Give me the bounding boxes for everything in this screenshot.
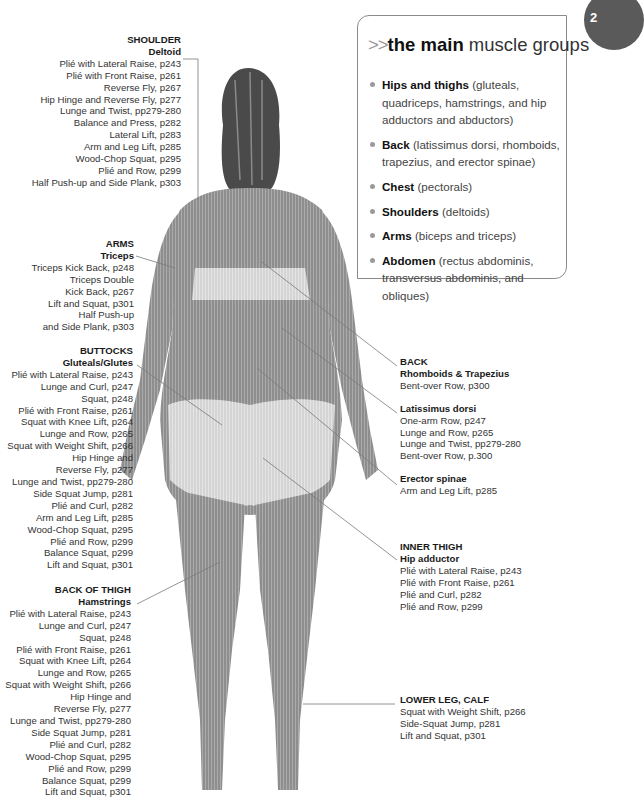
exercise-item: One-arm Row, p247 [400,415,521,427]
muscle-name: Deltoid [32,46,181,58]
exercise-item: Squat with Knee Lift, p264 [5,655,131,667]
exercise-item: Balance Squat, p299 [7,547,133,559]
list-item: Arms (biceps and triceps) [370,227,565,245]
exercise-item: Bent-over Row, p.300 [400,450,521,462]
hair [222,68,280,190]
exercise-item: Plié and Curl, p282 [400,589,522,601]
exercise-item: Lunge and Curl, p247 [7,381,133,393]
muscle-name: Hip adductor [400,553,522,565]
exercise-item: Side-Squat Jump, p281 [400,718,526,730]
exercise-item: Squat with Weight Shift, p266 [7,440,133,452]
region-heading: BACK [400,356,521,368]
exercise-item: Wood-Chop Squat, p295 [7,524,133,536]
item-name: Abdomen [382,254,435,267]
exercise-item: Squat, p248 [7,393,133,405]
exercise-item: Triceps Kick Back, p248 [31,262,134,274]
exercise-item: Plié and Row, p299 [32,165,181,177]
exercise-item: Lift and Squat, p301 [400,730,526,742]
exercise-item: Balance and Press, p282 [32,117,181,129]
muscle-name-latissimus: Latissimus dorsi [400,403,521,415]
exercise-item: Lunge and Twist, pp279-280 [7,476,133,488]
exercise-item: Lunge and Curl, p247 [5,620,131,632]
exercise-item: Squat, p248 [5,632,131,644]
exercise-item: Plié with Front Raise, p261 [7,405,133,417]
torso [160,188,342,515]
exercise-item: Hip Hinge and Reverse Fly, p277 [32,94,181,106]
exercise-item: Arm and Leg Lift, p285 [400,485,521,497]
exercise-item: Wood-Chop Squat, p295 [32,153,181,165]
exercise-item: Lunge and Twist, pp279-280 [5,715,131,727]
exercise-item: Arm and Leg Lift, p285 [32,141,181,153]
title-rest: muscle groups [464,34,589,55]
list-item: Chest (pectorals) [370,178,565,196]
exercise-list: Plié with Lateral Raise, p243Lunge and C… [7,369,133,571]
region-heading: BUTTOCKS [7,345,133,357]
exercise-item: Plié with Lateral Raise, p243 [7,369,133,381]
exercise-list: Arm and Leg Lift, p285 [400,485,521,497]
exercise-item: Lunge and Row, p265 [400,427,521,439]
exercise-item: Reverse Fly, p277 [5,703,131,715]
exercise-list: Plié with Lateral Raise, p243Plié with F… [32,58,181,189]
exercise-list: Plié with Lateral Raise, p243Plié with F… [400,565,522,613]
exercise-item: Squat with Knee Lift, p264 [7,416,133,428]
item-name: Arms [382,229,412,242]
region-heading: LOWER LEG, CALF [400,694,526,706]
exercise-item: Plié with Lateral Raise, p243 [32,58,181,70]
exercise-list: Plié with Lateral Raise, p243Lunge and C… [5,608,131,799]
title-bold: the main [388,34,464,55]
exercise-item: Squat with Weight Shift, p266 [5,679,131,691]
exercise-item: Reverse Fly, p277 [7,464,133,476]
list-item: Back (latissimus dorsi, rhomboids, trape… [370,136,565,171]
bullet-icon [370,233,375,238]
label-back-of-thigh: BACK OF THIGH Hamstrings Plié with Later… [5,584,131,798]
exercise-item: Plié with Front Raise, p261 [400,577,522,589]
exercise-item: Triceps Double [31,274,134,286]
exercise-item: Half Push-up [31,309,134,321]
exercise-list: Bent-over Row, p300 [400,380,521,392]
bullet-icon [370,142,375,147]
info-box-title: >>the main muscle groups [368,34,589,56]
muscle-name-rhomboids: Rhomboids & Trapezius [400,368,521,380]
exercise-item: Hip Hinge and [7,452,133,464]
bullet-icon [370,184,375,189]
muscle-group-list: Hips and thighs (gluteals, quadriceps, h… [370,76,565,312]
muscle-name: Triceps [31,250,134,262]
exercise-item: Lift and Squat, p301 [31,298,134,310]
exercise-item: Arm and Leg Lift, p285 [7,512,133,524]
exercise-item: Side Squat Jump, p281 [5,727,131,739]
exercise-item: Side Squat Jump, p281 [7,488,133,500]
muscle-name: Hamstrings [5,596,131,608]
chapter-number: 2 [590,10,597,25]
bullet-icon [370,209,375,214]
item-detail: (biceps and triceps) [412,229,516,242]
main-muscle-groups-box: >>the main muscle groups Hips and thighs… [357,15,567,279]
region-heading: ARMS [31,238,134,250]
exercise-item: Plié with Front Raise, p261 [5,644,131,656]
exercise-item: Plié and Row, p299 [7,536,133,548]
exercise-item: Kick Back, p267 [31,286,134,298]
exercise-item: Plié and Row, p299 [400,601,522,613]
leader-shoulder [183,59,198,200]
item-detail: (deltoids) [439,205,490,218]
label-shoulder: SHOULDER Deltoid Plié with Lateral Raise… [32,34,181,189]
exercise-item: Plié with Lateral Raise, p243 [5,608,131,620]
exercise-item: Plié with Lateral Raise, p243 [400,565,522,577]
label-inner-thigh: INNER THIGH Hip adductor Plié with Later… [400,541,522,612]
exercise-item: Lunge and Row, p265 [7,428,133,440]
label-buttocks: BUTTOCKS Gluteals/Glutes Plié with Later… [7,345,133,571]
exercise-item: Balance Squat, p299 [5,775,131,787]
list-item: Shoulders (deltoids) [370,203,565,221]
exercise-item: Lunge and Row, p265 [5,667,131,679]
exercise-item: and Side Plank, p303 [31,321,134,333]
label-lower-leg: LOWER LEG, CALF Squat with Weight Shift,… [400,694,526,742]
exercise-item: Wood-Chop Squat, p295 [5,751,131,763]
bullet-icon [370,258,375,263]
exercise-item: Lunge and Twist, pp279-280 [400,438,521,450]
exercise-item: Half Push-up and Side Plank, p303 [32,177,181,189]
region-heading: SHOULDER [32,34,181,46]
exercise-item: Reverse Fly, p267 [32,82,181,94]
exercise-item: Lift and Squat, p301 [5,786,131,798]
bullet-icon [370,82,375,87]
exercise-list: Squat with Weight Shift, p266Side-Squat … [400,706,526,742]
exercise-item: Lateral Lift, p283 [32,129,181,141]
